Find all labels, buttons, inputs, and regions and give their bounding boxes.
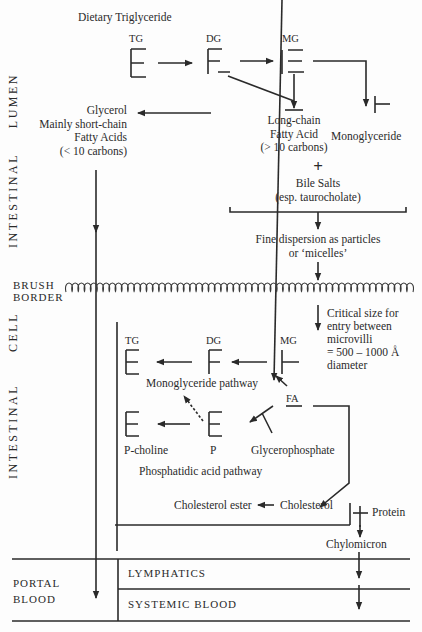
intestinal-cell-label: INTESTINAL bbox=[6, 384, 21, 479]
bile-salts-label: Bile Salts (esp. taurocholate) bbox=[258, 177, 378, 204]
plus-sign-bile: + bbox=[310, 160, 326, 174]
systemic-blood-label: SYSTEMIC BLOOD bbox=[128, 598, 237, 612]
portal-blood-label: PORTAL BLOOD bbox=[13, 575, 60, 607]
mg-label-lumen: MG bbox=[282, 32, 299, 46]
glycerophosphate-label: Glycerophosphate bbox=[251, 444, 335, 458]
dietary-triglyceride-title: Dietary Triglyceride bbox=[78, 11, 172, 25]
p-label: P bbox=[210, 444, 216, 458]
tg-label-cell: TG bbox=[125, 334, 139, 348]
tg-glyph-lumen bbox=[131, 49, 146, 77]
brush-border-microvilli bbox=[66, 283, 414, 292]
monoglyceride-label: Monoglyceride bbox=[331, 130, 401, 144]
mg-label-cell: MG bbox=[280, 334, 297, 348]
micelle-dispersion-label: Fine dispersion as particles or ‘micelle… bbox=[238, 233, 398, 260]
protein-label: Protein bbox=[372, 506, 405, 520]
phosphatidic-acid-pathway-label: Phosphatidic acid pathway bbox=[139, 465, 262, 479]
chylomicron-label: Chylomicron bbox=[326, 538, 387, 552]
intestinal-lumen-label: INTESTINAL bbox=[6, 153, 21, 248]
dg-label-cell: DG bbox=[206, 334, 221, 348]
tg-label-lumen: TG bbox=[129, 32, 143, 46]
p-choline-label: P-choline bbox=[124, 444, 168, 458]
dg-label-lumen: DG bbox=[206, 32, 221, 46]
fa-label: FA bbox=[286, 392, 299, 406]
cell-label: CELL bbox=[6, 312, 21, 352]
lymphatics-label: LYMPHATICS bbox=[128, 567, 206, 581]
critical-size-label: Critical size for entry between microvil… bbox=[327, 307, 399, 372]
dg-glyph-lumen bbox=[208, 49, 230, 74]
mg-glyph-lumen bbox=[282, 50, 304, 74]
monoglyceride-pathway-label: Monoglyceride pathway bbox=[146, 377, 258, 391]
brush-border-label: BRUSH BORDER bbox=[13, 279, 64, 303]
glycerol-short-chain-label: Glycerol Mainly short-chain Fatty Acids … bbox=[39, 104, 127, 158]
cholesterol-label: Cholesterol bbox=[280, 499, 333, 513]
long-chain-fatty-acid-label: Long-chain Fatty Acid (> 10 carbons) bbox=[244, 114, 344, 155]
cholesterol-ester-label: Cholesterol ester bbox=[174, 499, 252, 513]
lumen-label: LUMEN bbox=[6, 73, 21, 128]
